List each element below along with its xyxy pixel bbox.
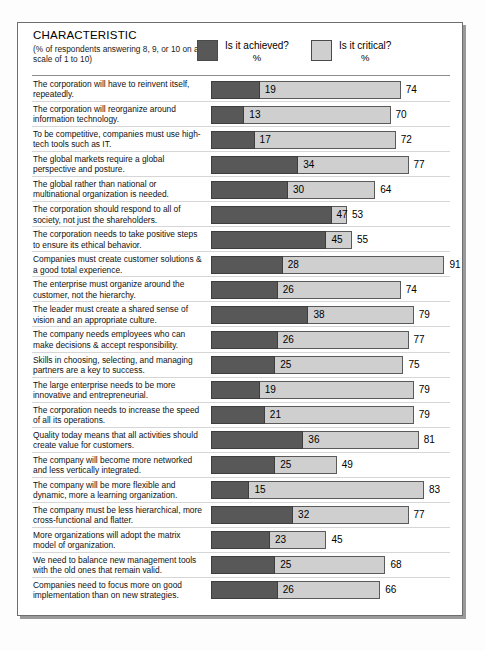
row-label: The global rather than national or multi… [33,179,205,200]
value-achieved: 26 [283,284,294,295]
value-critical: 68 [390,559,401,570]
chart-row: The company must be less hierarchical, m… [32,503,450,528]
row-label: The global markets require a global pers… [33,154,205,175]
row-label: The corporation will have to reinvent it… [33,79,205,100]
value-achieved: 47 [337,209,348,220]
bar-achieved [211,581,278,599]
chart-row: We need to balance new management tools … [32,553,450,578]
value-achieved: 13 [249,109,260,120]
chart-row: The enterprise must organize around the … [32,277,450,302]
value-critical: 77 [414,509,425,520]
value-achieved: 25 [280,559,291,570]
bar-achieved [211,256,283,274]
bar-achieved [211,156,298,174]
value-critical: 45 [331,534,342,545]
page-title: CHARACTERISTIC [33,29,137,41]
chart-row: Skills in choosing, selecting, and manag… [32,353,450,378]
legend-item-critical: Is it critical? % [311,40,391,64]
value-critical: 77 [414,159,425,170]
value-achieved: 38 [313,309,324,320]
value-critical: 77 [414,334,425,345]
value-critical: 70 [396,109,407,120]
legend-swatch-achieved-icon [197,40,218,61]
bar-achieved [211,181,288,199]
chart-frame: CHARACTERISTIC (% of respondents answeri… [17,22,463,616]
bar-achieved [211,381,260,399]
row-label: More organizations will adopt the matrix… [33,530,205,551]
chart-row: The company will become more networked a… [32,453,450,478]
row-label: The corporation needs to increase the sp… [33,405,205,426]
value-achieved: 36 [308,434,319,445]
row-label: Companies must create customer solutions… [33,254,205,275]
value-critical: 74 [406,84,417,95]
value-achieved: 19 [265,84,276,95]
header-divider [32,75,450,76]
bar-achieved [211,406,265,424]
chart-page: CHARACTERISTIC (% of respondents answeri… [0,0,486,651]
chart-header: CHARACTERISTIC (% of respondents answeri… [18,23,462,82]
value-critical: 79 [419,309,430,320]
row-label: The large enterprise needs to be more in… [33,380,205,401]
legend-unit-achieved: % [225,52,289,64]
row-label: The leader must create a shared sense of… [33,304,205,325]
chart-rows: The corporation will have to reinvent it… [18,77,462,603]
bar-achieved [211,281,278,299]
chart-row: The corporation will have to reinvent it… [32,77,450,102]
value-critical: 83 [429,484,440,495]
bar-achieved [211,481,249,499]
value-critical: 81 [424,434,435,445]
bar-achieved [211,356,275,374]
bar-achieved [211,231,326,249]
value-achieved: 28 [288,259,299,270]
value-achieved: 26 [283,334,294,345]
legend-label-achieved: Is it achieved? [225,40,289,51]
chart-row: The corporation should respond to all of… [32,202,450,227]
value-achieved: 15 [254,484,265,495]
value-achieved: 45 [331,234,342,245]
legend-label-achieved-wrap: Is it achieved? % [225,40,289,64]
legend-label-critical-wrap: Is it critical? % [339,40,391,64]
chart-row: Companies must create customer solutions… [32,252,450,277]
chart-row: Companies need to focus more on good imp… [32,578,450,603]
chart-row: To be competitive, companies must use hi… [32,127,450,152]
value-critical: 79 [419,409,430,420]
value-critical: 79 [419,384,430,395]
value-achieved: 23 [275,534,286,545]
chart-row: The corporation needs to increase the sp… [32,403,450,428]
legend-swatch-critical-icon [311,40,332,61]
chart-row: The corporation needs to take positive s… [32,227,450,252]
bar-achieved [211,131,255,149]
row-label: We need to balance new management tools … [33,555,205,576]
row-label: Skills in choosing, selecting, and manag… [33,355,205,376]
chart-row: More organizations will adopt the matrix… [32,528,450,553]
row-label: The company must be less hierarchical, m… [33,505,205,526]
value-achieved: 32 [298,509,309,520]
value-achieved: 25 [280,359,291,370]
value-achieved: 21 [270,409,281,420]
bar-achieved [211,81,260,99]
row-label: The enterprise must organize around the … [33,279,205,300]
bar-achieved [211,506,293,524]
value-critical: 91 [449,259,460,270]
value-critical: 72 [401,134,412,145]
value-achieved: 19 [265,384,276,395]
value-critical: 49 [342,459,353,470]
row-label: The corporation should respond to all of… [33,204,205,225]
value-achieved: 26 [283,584,294,595]
chart-row: The large enterprise needs to be more in… [32,378,450,403]
bar-achieved [211,306,308,324]
row-label: The corporation needs to take positive s… [33,229,205,250]
value-critical: 74 [406,284,417,295]
bar-achieved [211,206,332,224]
row-label: Companies need to focus more on good imp… [33,580,205,601]
chart-row: The company needs employees who can make… [32,327,450,352]
row-label: Quality today means that all activities … [33,430,205,451]
value-critical: 55 [357,234,368,245]
legend-item-achieved: Is it achieved? % [197,40,289,64]
bar-achieved [211,556,275,574]
value-critical: 53 [352,209,363,220]
bar-achieved [211,331,278,349]
row-label: The company needs employees who can make… [33,329,205,350]
value-achieved: 30 [293,184,304,195]
row-label: To be competitive, companies must use hi… [33,129,205,150]
